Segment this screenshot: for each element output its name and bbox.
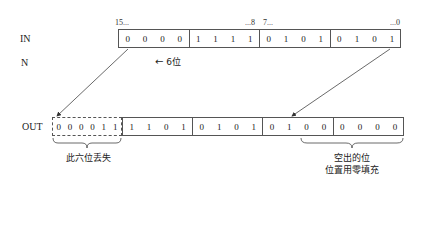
- zero-fill-caption-line2: 位置用零填充: [312, 164, 392, 176]
- msb-shift-arrow: [57, 49, 128, 116]
- zero-fill-caption-line1: 空出的位: [322, 152, 382, 164]
- zero-fill-brace: [301, 138, 403, 148]
- lost-bits-brace: [53, 138, 121, 148]
- lost-bits-caption: 此六位丢失: [58, 152, 118, 164]
- lsb-shift-arrow: [292, 49, 390, 116]
